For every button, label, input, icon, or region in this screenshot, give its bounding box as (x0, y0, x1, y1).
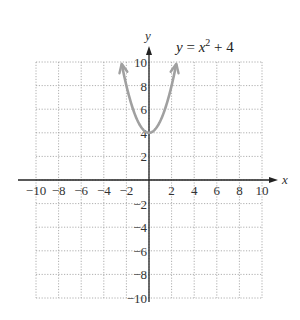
y-tick-label: 2 (141, 149, 148, 164)
x-tick-label: −10 (26, 183, 46, 198)
y-axis-arrow-icon (146, 46, 152, 55)
y-tick-label: −10 (127, 291, 147, 306)
y-tick-label: 10 (134, 55, 147, 70)
y-axis-label: y (143, 28, 151, 43)
y-tick-label: −2 (133, 197, 147, 212)
x-tick-label: 2 (168, 183, 175, 198)
x-tick-label: 4 (191, 183, 198, 198)
x-tick-label: −8 (52, 183, 66, 198)
x-tick-label: −4 (97, 183, 111, 198)
x-axis-arrow-icon (269, 177, 278, 183)
x-tick-label: 6 (214, 183, 221, 198)
y-tick-label: 6 (141, 102, 148, 117)
x-tick-label: −6 (74, 183, 88, 198)
x-axis-label: x (281, 172, 288, 187)
y-tick-label: −8 (133, 267, 147, 282)
y-tick-label: 8 (141, 79, 148, 94)
x-tick-label: −2 (119, 183, 133, 198)
y-tick-label: −4 (133, 220, 147, 235)
x-tick-label: 8 (236, 183, 243, 198)
y-tick-label: −6 (133, 244, 147, 259)
x-tick-label: 10 (256, 183, 269, 198)
equation-label: y = x2 + 4 (174, 37, 234, 55)
parabola-chart: −10−8−6−4−2246810−10−8−6−4−2246810 y = x… (0, 0, 300, 320)
